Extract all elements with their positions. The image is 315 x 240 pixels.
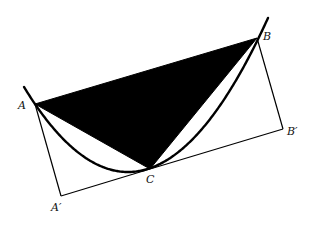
label-point-b: B <box>263 31 271 42</box>
label-point-b-prime: B′ <box>287 126 298 137</box>
label-point-a: A <box>18 100 26 111</box>
label-point-c: C <box>146 174 154 185</box>
label-point-a-prime: A′ <box>51 202 61 213</box>
